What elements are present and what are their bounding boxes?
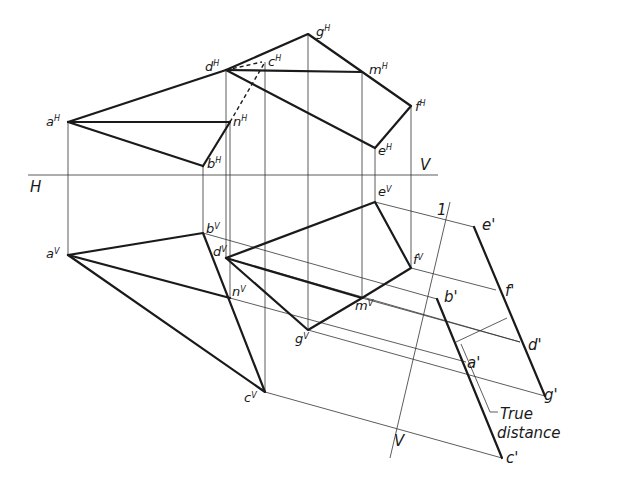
front-triangle-abc (68, 233, 265, 392)
annotation-distance: distance (497, 424, 561, 442)
label-m-v: mV (355, 298, 374, 313)
label-d-v: dV (213, 244, 227, 259)
projection-lines-vertical (68, 34, 411, 392)
drawing-canvas: H V 1 V aH dH cH gH mH fH eH nH bH aV bV… (0, 0, 628, 486)
label-b-h: bH (207, 156, 221, 171)
label-c-aux: c' (506, 449, 518, 467)
label-a-v: aV (46, 246, 60, 261)
top-plane-outline (68, 34, 411, 148)
aux-projector-f (411, 268, 496, 290)
label-f-v: fV (413, 252, 424, 267)
label-g-aux: g' (544, 386, 558, 404)
aux-projector-m (362, 298, 520, 342)
label-e-v: eV (378, 184, 392, 199)
top-line-ab (68, 122, 203, 166)
top-line-dm (226, 70, 362, 72)
label-e-h: eH (378, 143, 392, 158)
label-m-h: mH (369, 62, 388, 77)
label-f-aux: f' (505, 282, 514, 300)
aux-projector-g (308, 330, 545, 396)
label-e-aux: e' (482, 216, 495, 234)
front-line-an (68, 255, 230, 298)
label-b-v: bV (206, 221, 220, 236)
aux-projector-e (375, 202, 474, 227)
label-aux-v: V (394, 432, 406, 450)
label-d-aux: d' (528, 336, 542, 354)
aux-edge-plane (474, 227, 545, 396)
label-f-h: fH (415, 99, 426, 114)
label-d-h: dH (205, 59, 219, 74)
label-v-plane: V (420, 156, 432, 174)
label-h-plane: H (30, 178, 41, 196)
label-c-h: cH (268, 54, 281, 69)
folding-line-aux (390, 202, 450, 458)
annotation-true: True (500, 405, 533, 423)
label-aux-1: 1 (437, 201, 447, 219)
descriptive-geometry-figure: H V 1 V aH dH cH gH mH fH eH nH bH aV bV… (0, 0, 628, 486)
label-b-aux: b' (444, 288, 458, 306)
aux-projector-c (265, 392, 502, 458)
label-n-h: nH (233, 114, 247, 129)
label-g-v: gV (295, 331, 309, 346)
top-view (68, 34, 411, 166)
front-line-dm (226, 258, 362, 298)
aux-edge-abc (437, 299, 502, 458)
label-n-v: nV (232, 284, 246, 299)
label-a-h: aH (46, 114, 60, 129)
projection-lines-auxiliary (203, 202, 545, 458)
label-a-aux: a' (467, 354, 480, 372)
top-view-labels: aH dH cH gH mH fH eH nH bH (46, 24, 426, 171)
label-g-h: gH (316, 24, 330, 39)
label-c-v: cV (244, 390, 257, 405)
true-distance-dimension (456, 318, 507, 342)
